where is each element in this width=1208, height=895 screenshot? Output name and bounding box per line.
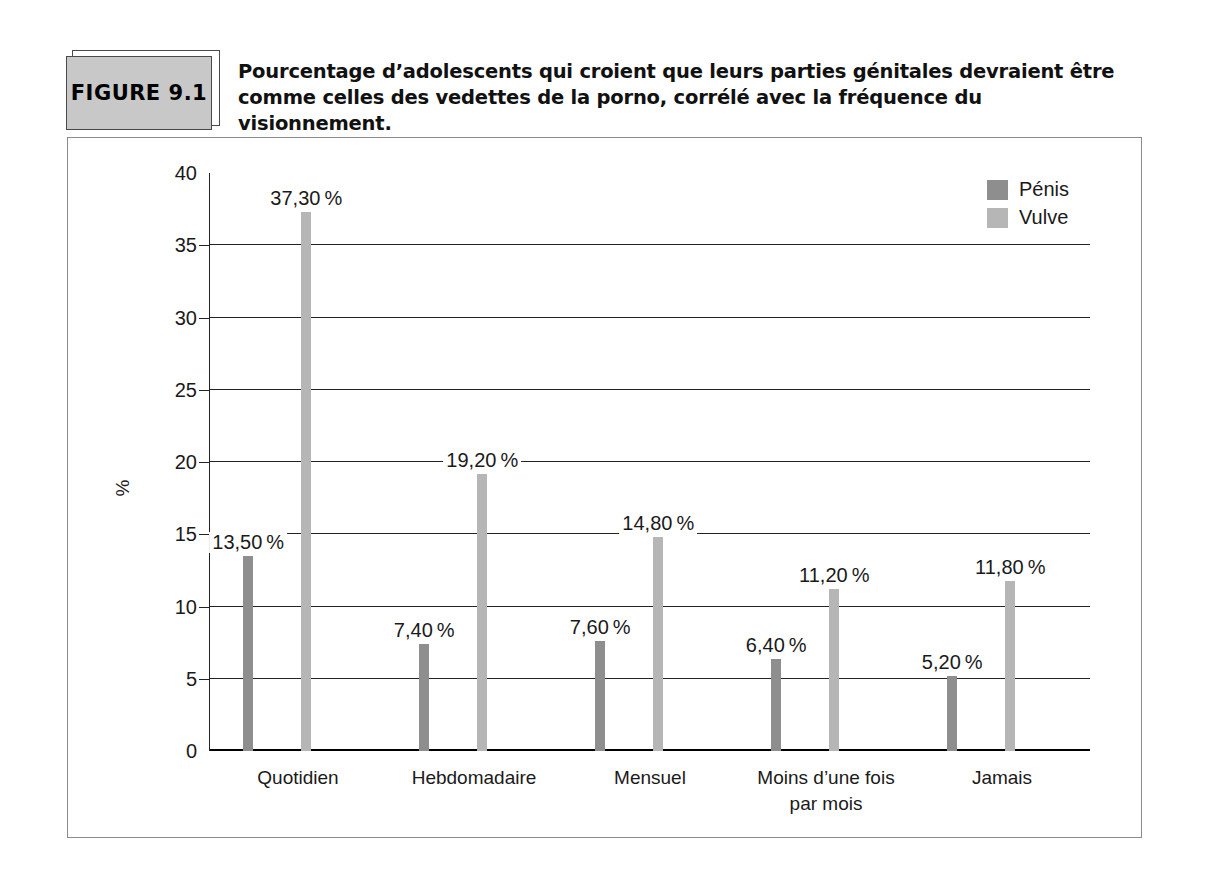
bar-value-label: 11,20 % [796, 565, 872, 586]
bar-vulve-4: 11,20 % [829, 589, 839, 751]
bar-group-4: 6,40 %11,20 %Moins d’une foispar mois [738, 173, 914, 751]
x-category-label-2: Hebdomadaire [412, 765, 537, 791]
y-tick-mark-20 [199, 462, 210, 463]
y-tick-mark-5 [199, 679, 210, 680]
y-tick-label-25: 25 [175, 378, 197, 401]
bar-value-label: 37,30 % [267, 188, 345, 209]
chart-frame: % PénisVulve 051015202530354013,50 %37,3… [67, 137, 1142, 838]
y-axis-title: % [112, 479, 134, 496]
bar-group-3: 7,60 %14,80 %Mensuel [562, 173, 738, 751]
figure-number-label: FIGURE 9.1 [71, 81, 207, 105]
bar-vulve-2: 19,20 % [477, 474, 487, 751]
bar-vulve-5: 11,80 % [1005, 581, 1015, 752]
y-tick-label-20: 20 [175, 451, 197, 474]
figure-caption-line-2: comme celles des vedettes de la porno, c… [238, 85, 1138, 137]
bar-value-label: 14,80 % [619, 513, 697, 534]
figure-caption-line-1: Pourcentage d’adolescents qui croient qu… [238, 59, 1138, 85]
x-category-label-line2: par mois [757, 791, 894, 817]
y-tick-label-5: 5 [186, 667, 197, 690]
y-tick-mark-25 [199, 390, 210, 391]
bar-group-2: 7,40 %19,20 %Hebdomadaire [386, 173, 562, 751]
bar-pnis-2: 7,40 % [419, 644, 429, 751]
y-tick-mark-30 [199, 318, 210, 319]
y-tick-label-35: 35 [175, 234, 197, 257]
figure-caption: Pourcentage d’adolescents qui croient qu… [238, 50, 1138, 137]
x-category-label-3: Mensuel [614, 765, 686, 791]
y-tick-label-0: 0 [186, 740, 197, 763]
bar-pnis-1: 13,50 % [243, 556, 253, 751]
x-category-label-1: Quotidien [257, 765, 338, 791]
bar-pnis-4: 6,40 % [771, 659, 781, 751]
figure-badge: FIGURE 9.1 [66, 50, 218, 130]
bar-value-label: 19,20 % [443, 450, 521, 471]
x-category-label-5: Jamais [972, 765, 1032, 791]
bar-pnis-3: 7,60 % [595, 641, 605, 751]
y-tick-label-15: 15 [175, 523, 197, 546]
bar-value-label: 7,60 % [567, 617, 634, 638]
bar-value-label: 6,40 % [743, 635, 810, 656]
bar-pnis-5: 5,20 % [947, 676, 957, 751]
bar-group-5: 5,20 %11,80 %Jamais [914, 173, 1090, 751]
bar-vulve-1: 37,30 % [301, 212, 311, 751]
bar-vulve-3: 14,80 % [653, 537, 663, 751]
bar-value-label: 7,40 % [391, 620, 458, 641]
bar-value-label: 5,20 % [919, 652, 986, 673]
chart-canvas: % PénisVulve 051015202530354013,50 %37,3… [68, 138, 1141, 837]
y-tick-label-30: 30 [175, 306, 197, 329]
y-tick-label-40: 40 [175, 162, 197, 185]
bar-group-1: 13,50 %37,30 %Quotidien [210, 173, 386, 751]
bar-value-label: 11,80 % [972, 557, 1048, 578]
x-category-label-4: Moins d’une foispar mois [757, 765, 894, 816]
bar-value-label: 13,50 % [209, 532, 287, 553]
y-tick-mark-35 [199, 245, 210, 246]
y-tick-label-10: 10 [175, 595, 197, 618]
figure-header: FIGURE 9.1 Pourcentage d’adolescents qui… [66, 50, 1144, 134]
y-tick-mark-10 [199, 607, 210, 608]
plot-area: 051015202530354013,50 %37,30 %Quotidien7… [210, 173, 1090, 751]
